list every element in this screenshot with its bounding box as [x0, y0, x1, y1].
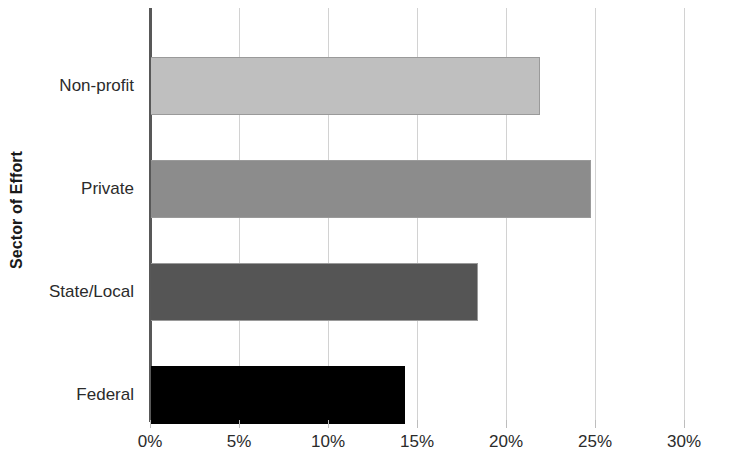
- bar-private: [150, 160, 591, 218]
- x-tick-mark-20pct: [506, 420, 507, 428]
- x-tick-label-5pct: 5%: [227, 432, 252, 452]
- x-tick-label-0pct: 0%: [138, 432, 163, 452]
- x-tick-label-20pct: 20%: [489, 432, 523, 452]
- x-tick-label-25pct: 25%: [578, 432, 612, 452]
- bar-federal: [150, 366, 405, 424]
- bar-non-profit: [150, 57, 540, 115]
- x-tick-label-15pct: 15%: [400, 432, 434, 452]
- y-tick-label-federal: Federal: [76, 385, 134, 405]
- plot-area: [150, 8, 684, 420]
- y-tick-label-non-profit: Non-profit: [59, 76, 134, 96]
- x-tick-mark-25pct: [595, 420, 596, 428]
- x-tick-label-30pct: 30%: [667, 432, 701, 452]
- y-tick-label-private: Private: [81, 179, 134, 199]
- gridline-30pct: [684, 8, 685, 420]
- bar-chart: Sector of Effort Non-profitPrivateState/…: [0, 0, 729, 476]
- gridline-25pct: [595, 8, 596, 420]
- y-tick-label-state-local: State/Local: [49, 282, 134, 302]
- y-axis-tick-labels: Non-profitPrivateState/LocalFederal: [34, 8, 142, 420]
- x-tick-mark-5pct: [239, 420, 240, 428]
- x-tick-mark-15pct: [417, 420, 418, 428]
- x-tick-mark-0pct: [150, 420, 151, 428]
- x-tick-label-10pct: 10%: [311, 432, 345, 452]
- x-tick-mark-30pct: [684, 420, 685, 428]
- x-axis-tick-labels: 0%5%10%15%20%25%30%: [150, 432, 684, 462]
- bar-state-local: [150, 263, 478, 321]
- y-axis-line: [149, 8, 151, 422]
- x-tick-mark-10pct: [328, 420, 329, 428]
- y-axis-title-text: Sector of Effort: [8, 151, 26, 269]
- y-axis-title: Sector of Effort: [0, 0, 34, 420]
